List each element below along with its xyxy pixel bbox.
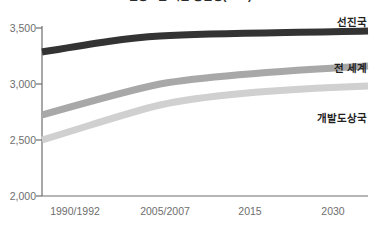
y-tick-label-3500: 3,500 [0, 22, 36, 34]
x-tick-label-3: 2015 [205, 205, 295, 217]
legend-label-developing: 개발도상국 [317, 110, 367, 125]
y-tick-label-2000: 2,000 [0, 190, 36, 202]
x-tick-label-4: 2030 [295, 205, 371, 217]
legend-label-developed: 선진국 [337, 14, 367, 29]
x-tick-label-2: 2005/2007 [110, 205, 220, 217]
legend-label-world: 전 세계 [334, 60, 367, 75]
y-tick-label-2500: 2,500 [0, 134, 36, 146]
y-tick-label-3000: 3,000 [0, 78, 36, 90]
series-line-developed [42, 31, 368, 52]
chart-container: 1인당 1일 식품 공급량(kcal) 3,500 3,000 2,500 2,… [0, 0, 373, 228]
